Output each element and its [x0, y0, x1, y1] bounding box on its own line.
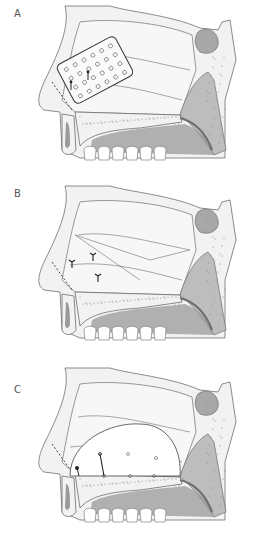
nasal-cavity-illustration-a — [0, 0, 276, 180]
panel-c: C — [0, 362, 276, 547]
nasal-cavity-illustration-b — [0, 180, 276, 360]
panel-a: A — [0, 0, 276, 180]
panel-b: B — [0, 180, 276, 360]
nasal-cavity-illustration-c — [0, 362, 276, 547]
